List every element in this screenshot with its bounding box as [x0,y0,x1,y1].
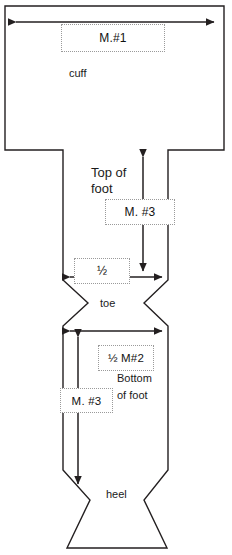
heel-label: heel [106,489,127,501]
callout-top-of-foot-length: M. #3 [105,199,175,225]
callout-cuff-width: M.#1 [61,24,165,52]
bottom-of-foot-label-line1: Bottom [117,373,152,385]
bottom-of-foot-label-line2: of foot [117,390,148,402]
cuff-label: cuff [69,68,87,80]
callout-bottom-half-m2: ½ M#2 [98,345,154,371]
top-of-foot-label-line2: foot [91,182,113,196]
top-of-foot-label-line1: Top of [91,166,126,180]
sock-diagram: cuff Top of foot toe Bottom of foot heel… [0,0,232,555]
callout-toe-width-half: ½ [74,258,130,284]
callout-bottom-of-foot-length: M. #3 [60,388,113,413]
toe-label: toe [100,298,115,310]
